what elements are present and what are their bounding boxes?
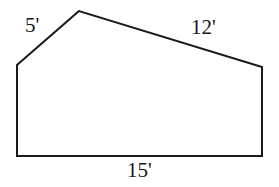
dimension-label-right-slant: 12' (191, 17, 216, 38)
geometry-figure-canvas: 5' 12' 15' (0, 0, 279, 187)
pentagon-outline (17, 11, 262, 156)
dimension-label-left-slant: 5' (25, 15, 39, 36)
dimension-label-base: 15' (127, 160, 152, 181)
